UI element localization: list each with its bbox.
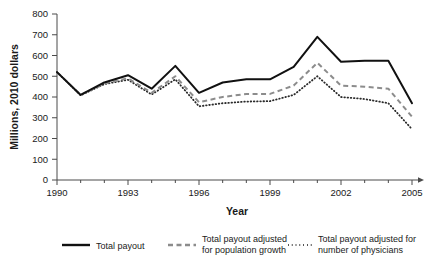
x-tick-label: 2005 [401, 187, 422, 198]
legend-label-total-payout: Total payout [96, 241, 145, 251]
y-tick-label: 300 [32, 112, 48, 123]
legend-label-population-line2: for population growth [202, 245, 286, 255]
legend-label-physicians-line2: number of physicians [318, 245, 404, 255]
x-axis-arrow [418, 177, 424, 183]
y-axis-title: Millions, 2010 dollars [8, 44, 20, 150]
x-tick-label: 2002 [330, 187, 351, 198]
y-tick-label: 700 [32, 29, 48, 40]
y-tick-label: 800 [32, 8, 48, 19]
chart-figure: 0100200300400500600700800 19901993199619… [0, 0, 427, 267]
x-tick-label: 1993 [117, 187, 138, 198]
y-tick-label: 600 [32, 50, 48, 61]
series-line-total-payout-adjusted-population [57, 63, 412, 117]
x-tick-label: 1999 [259, 187, 280, 198]
x-axis-title: Year [226, 205, 248, 217]
chart-legend: Total payout Total payout adjusted for p… [62, 234, 416, 255]
legend-label-population-line1: Total payout adjusted [202, 234, 287, 244]
x-axis-ticks [57, 180, 412, 185]
x-axis-tick-labels: 199019931996199920022005 [46, 187, 422, 198]
y-tick-label: 400 [32, 91, 48, 102]
y-tick-label: 500 [32, 71, 48, 82]
y-axis-ticks: 0100200300400500600700800 [32, 8, 57, 185]
series-line-total-payout [57, 37, 412, 103]
x-tick-label: 1996 [188, 187, 209, 198]
x-tick-label: 1990 [46, 187, 67, 198]
legend-label-physicians-line1: Total payout adjusted for [318, 234, 416, 244]
line-chart: 0100200300400500600700800 19901993199619… [0, 0, 427, 267]
y-tick-label: 100 [32, 154, 48, 165]
y-tick-label: 0 [43, 174, 48, 185]
y-tick-label: 200 [32, 133, 48, 144]
